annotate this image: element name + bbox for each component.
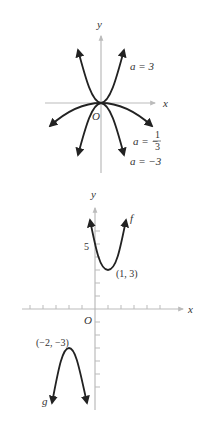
frac-den: 3 [155, 141, 160, 152]
label-g: g [42, 395, 48, 407]
curve-g [52, 348, 87, 403]
label-f: f [130, 212, 135, 224]
y-axis-label: y [90, 188, 96, 200]
origin-label: O [92, 110, 100, 122]
label-a-3: a = 3 [130, 60, 154, 72]
label-vertex-f: (1, 3) [116, 268, 138, 280]
label-vertex-g: (−2, −3) [36, 337, 69, 349]
label-a-neg3: a = −3 [130, 155, 162, 167]
figure: x y O a = 3 a = − 1 3 a = −3 [0, 0, 205, 428]
frac-num: 1 [155, 129, 160, 140]
y-axis-label: y [96, 18, 102, 30]
tick-5-label: 5 [84, 241, 89, 252]
x-axis-label: x [187, 303, 193, 315]
bottom-chart: x y O 5 f (1, 3) g (−2, −3) [22, 188, 193, 410]
top-chart: x y O a = 3 a = − 1 3 a = −3 [45, 18, 168, 173]
x-axis-label: x [162, 97, 168, 109]
origin-label: O [84, 314, 92, 326]
